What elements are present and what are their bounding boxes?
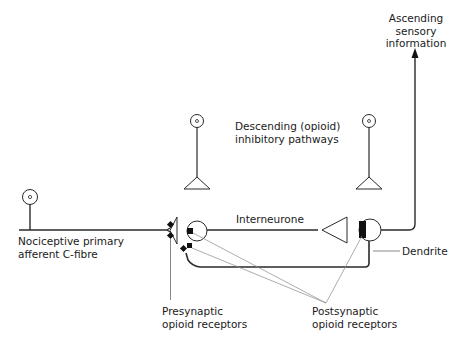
label-c-fibre: Nociceptive primary afferent C-fibre bbox=[18, 235, 124, 260]
label-ascending: Ascending sensory information bbox=[381, 12, 451, 50]
label-presynaptic-line1: Presynaptic bbox=[162, 305, 247, 318]
c-fibre-cell-body-icon bbox=[23, 190, 38, 231]
ascending-axon bbox=[381, 58, 415, 230]
label-presynaptic: Presynaptic opioid receptors bbox=[162, 305, 247, 330]
label-c-fibre-line2: afferent C-fibre bbox=[18, 248, 124, 261]
label-dendrite: Dendrite bbox=[402, 245, 448, 258]
label-postsynaptic-line2: opioid receptors bbox=[312, 318, 397, 331]
postsynaptic-receptor-dendrite-icon bbox=[180, 243, 192, 252]
label-ascending-line3: information bbox=[381, 37, 451, 50]
label-interneurone: Interneurone bbox=[236, 213, 304, 226]
label-postsynaptic: Postsynaptic opioid receptors bbox=[312, 305, 397, 330]
descending-neuron-left-icon bbox=[184, 115, 210, 190]
label-presynaptic-line2: opioid receptors bbox=[162, 318, 247, 331]
label-descending-line1: Descending (opioid) bbox=[235, 120, 340, 133]
diagram-canvas bbox=[0, 0, 462, 340]
descending-neuron-right-icon bbox=[356, 115, 382, 190]
label-c-fibre-line1: Nociceptive primary bbox=[18, 235, 124, 248]
ascending-arrow-icon bbox=[412, 48, 419, 58]
projection-neuron-icon bbox=[359, 219, 381, 241]
label-descending-line2: inhibitory pathways bbox=[235, 133, 340, 146]
label-ascending-line1: Ascending bbox=[381, 12, 451, 25]
dendrite-loop bbox=[186, 241, 369, 267]
label-ascending-line2: sensory bbox=[381, 25, 451, 38]
label-descending: Descending (opioid) inhibitory pathways bbox=[235, 120, 340, 145]
postsynaptic-leader-lines bbox=[192, 233, 362, 303]
label-postsynaptic-line1: Postsynaptic bbox=[312, 305, 397, 318]
